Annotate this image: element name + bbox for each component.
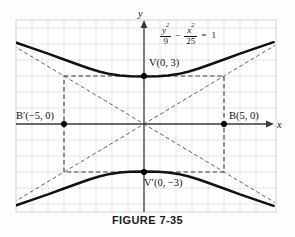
equation-term-2: x2 25 (184, 24, 197, 46)
equation-term-1: y2 9 (160, 24, 171, 46)
equation-operator: − (175, 31, 180, 40)
point-b-left (61, 121, 67, 127)
point-vertex-bottom (141, 169, 147, 175)
x-axis-label: x (277, 119, 282, 130)
equation-term2-denominator: 25 (184, 37, 197, 47)
label-vertex-top: V(0, 3) (149, 58, 179, 69)
label-b-right: B(5, 0) (229, 111, 259, 122)
point-vertex-top (141, 73, 147, 79)
hyperbola-equation: y2 9 − x2 25 = 1 (158, 24, 216, 46)
equation-equals-sign: = (201, 31, 206, 40)
y-axis-label: y (138, 8, 143, 19)
label-b-left: B′(−5, 0) (16, 111, 54, 122)
label-vertex-bottom: V′(0, −3) (144, 178, 183, 189)
equation-term2-exponent: 2 (191, 21, 194, 28)
figure-caption: FIGURE 7-35 (0, 214, 295, 226)
equation-term1-exponent: 2 (166, 21, 169, 28)
equation-term2-numerator: x2 (185, 24, 196, 36)
equation-right-side: 1 (211, 31, 216, 40)
figure-container: y2 9 − x2 25 = 1 V(0, 3) V′(0, −3) B(5, … (0, 0, 295, 237)
equation-term1-denominator: 9 (161, 37, 170, 47)
equation-term1-numerator: y2 (160, 24, 171, 36)
point-b-right (221, 121, 227, 127)
